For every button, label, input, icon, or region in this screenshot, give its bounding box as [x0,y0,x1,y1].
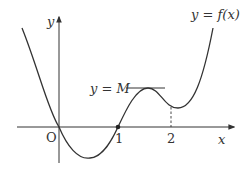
point-at-1 [116,125,121,130]
function-graph: y x O 1 2 y = M y = f(x) [0,0,247,175]
x-tick-2: 2 [167,131,175,146]
x-axis-label: x [218,132,226,147]
y-axis-label: y [46,14,55,29]
x-tick-1: 1 [115,131,123,146]
max-line-label: y = M [89,81,131,96]
function-label: y = f(x) [190,7,240,22]
origin-label: O [46,130,57,145]
